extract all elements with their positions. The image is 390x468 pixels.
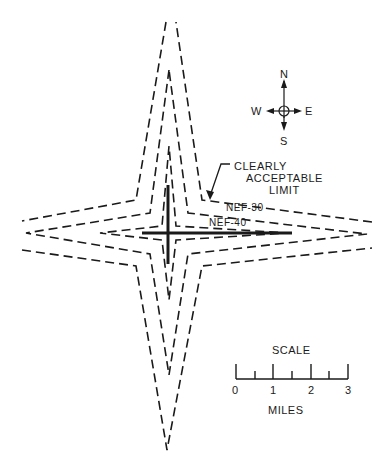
compass-south-label: S (280, 135, 288, 147)
scale-tick-2: 2 (308, 384, 315, 396)
callout-line-3: LIMIT (269, 184, 300, 196)
scale-title: SCALE (272, 344, 311, 356)
scale-bar (236, 364, 348, 379)
nef-30-label: NEF-30 (226, 202, 263, 213)
scale-tick-3: 3 (345, 384, 352, 396)
compass-east-label: E (305, 105, 313, 117)
callout-line-1: CLEARLY (234, 160, 287, 172)
callout-leader (210, 164, 230, 196)
contour-clearly-acceptable-limit (22, 22, 372, 450)
callout-line-2: ACCEPTABLE (246, 172, 323, 184)
compass-west-label: W (251, 105, 262, 117)
compass-north-label: N (280, 68, 288, 80)
callout-arrowhead-icon (206, 190, 214, 200)
noise-contour-diagram: CLEARLY ACCEPTABLE LIMIT NEF-30 NEF-40 N… (0, 0, 390, 468)
scale-unit: MILES (268, 404, 304, 416)
scale-tick-1: 1 (270, 384, 277, 396)
nef-40-label: NEF-40 (209, 217, 246, 228)
scale-tick-0: 0 (232, 384, 239, 396)
contour-nef-30 (26, 70, 367, 375)
